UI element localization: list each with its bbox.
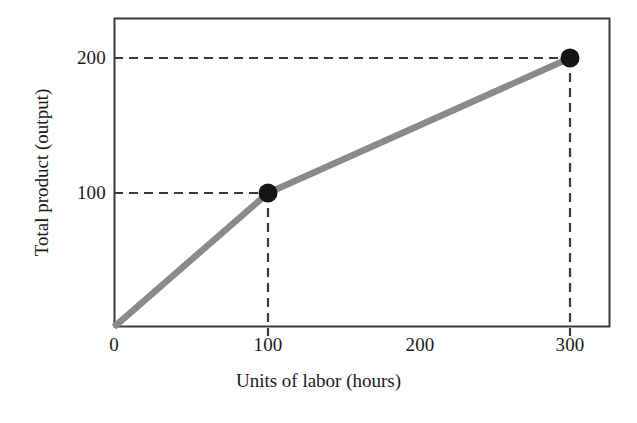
x-tick-label-100: 100	[253, 334, 282, 356]
y-tick-label-100: 100	[54, 182, 106, 204]
x-axis-title: Units of labor (hours)	[0, 370, 637, 392]
total-product-chart: 200 100 0 100 200 300 Units of labor (ho…	[0, 0, 637, 423]
x-tick-label-0: 0	[109, 334, 119, 356]
data-point-marker-100-100	[259, 184, 278, 203]
x-tick-label-300: 300	[555, 334, 584, 356]
x-tick-label-200: 200	[405, 334, 434, 356]
plot-frame	[115, 19, 610, 327]
y-tick-label-200: 200	[54, 47, 106, 69]
data-point-marker-300-200	[561, 49, 580, 68]
y-axis-title: Total product (output)	[30, 18, 54, 327]
